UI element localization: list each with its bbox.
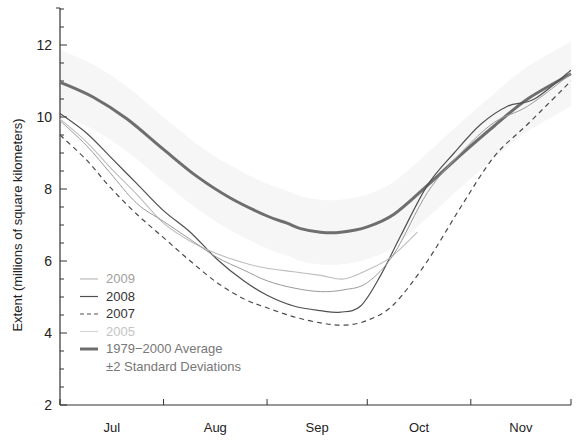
legend-label: 1979−2000 Average <box>106 341 223 356</box>
y-tick-label: 8 <box>44 181 52 197</box>
y-tick-label: 4 <box>44 325 52 341</box>
legend-label: 2009 <box>106 271 135 286</box>
legend-item-2: 2008 <box>80 289 135 304</box>
legend-item-1: 2009 <box>80 271 135 286</box>
x-month-label: Oct <box>409 420 430 435</box>
y-tick-label: 6 <box>44 253 52 269</box>
legend-label: 2007 <box>106 306 135 321</box>
x-month-label: Aug <box>204 420 227 435</box>
legend-item-3: 2007 <box>80 306 135 321</box>
sea-ice-extent-chart: 24681012JulAugSepOctNov 2009200820072005… <box>0 0 579 445</box>
x-month-label: Nov <box>509 420 533 435</box>
y-tick-label: 2 <box>44 397 52 413</box>
legend-item-5: 1979−2000 Average <box>80 341 223 356</box>
legend-item-4: 2005 <box>80 324 135 339</box>
x-month-label: Sep <box>306 420 329 435</box>
y-tick-label: 10 <box>36 109 52 125</box>
legend-item-6: ±2 Standard Deviations <box>106 359 242 374</box>
legend-label: ±2 Standard Deviations <box>106 359 242 374</box>
legend-label: 2008 <box>106 289 135 304</box>
legend: 20092008200720051979−2000 Average±2 Stan… <box>80 271 242 374</box>
legend-label: 2005 <box>106 324 135 339</box>
y-axis-title: Extent (millions of square kilometers) <box>10 118 25 331</box>
x-month-label: Jul <box>103 420 120 435</box>
y-tick-label: 12 <box>36 37 52 53</box>
